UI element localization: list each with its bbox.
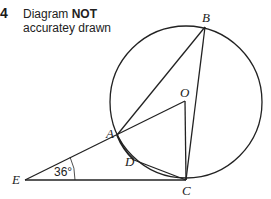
label-A: A xyxy=(105,126,114,141)
angle-E-value: 36° xyxy=(54,165,72,179)
line-AB xyxy=(117,27,205,135)
line-BC xyxy=(186,27,205,180)
label-O: O xyxy=(180,85,190,100)
label-D: D xyxy=(124,154,135,169)
line-DC xyxy=(134,160,186,180)
label-B: B xyxy=(202,10,210,25)
line-OC xyxy=(185,101,186,180)
line-EO xyxy=(25,101,185,180)
label-C: C xyxy=(182,183,191,198)
geometry-diagram: B O A D C E 36° xyxy=(0,0,271,199)
label-E: E xyxy=(11,172,20,187)
